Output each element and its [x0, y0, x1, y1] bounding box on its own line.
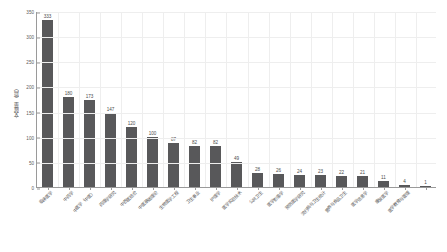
bar-slot: 24 — [289, 12, 310, 187]
x-axis-label: 医学教育与管理 — [387, 190, 411, 214]
bar-slot: 1 — [415, 12, 436, 187]
bar[interactable] — [126, 127, 137, 187]
bar-value-label: 173 — [86, 94, 94, 99]
bar-value-label: 87 — [171, 137, 176, 142]
bar[interactable] — [273, 174, 284, 187]
bar[interactable] — [63, 97, 74, 188]
bar-slot: 11 — [373, 12, 394, 187]
x-axis-label: 中医学（中医） — [71, 190, 95, 214]
y-axis-tick-label: 50 — [29, 160, 37, 165]
bar[interactable] — [189, 146, 200, 187]
bar-slot: 180 — [58, 12, 79, 187]
bar[interactable] — [105, 113, 116, 187]
bar-value-label: 1 — [424, 180, 427, 185]
bar-value-label: 82 — [192, 140, 197, 145]
x-axis-label: 预防医学研究 — [285, 190, 306, 211]
x-axis-label: 药理学研究 — [98, 190, 116, 208]
bar-slot: 82 — [205, 12, 226, 187]
x-axis-label: 医学信息学 — [351, 190, 369, 208]
x-axis-label: 中医基础理论 — [137, 190, 158, 211]
bar-value-label: 23 — [318, 169, 323, 174]
y-axis-tick-label: 250 — [26, 60, 37, 65]
bar-slot: 23 — [310, 12, 331, 187]
bar-slot: 120 — [121, 12, 142, 187]
y-axis-tick-label: 150 — [26, 110, 37, 115]
bar-slot: 49 — [226, 12, 247, 187]
bar-slot: 147 — [100, 12, 121, 187]
bar-value-label: 49 — [234, 156, 239, 161]
y-axis-tick-label: 200 — [26, 85, 37, 90]
bar[interactable] — [84, 100, 95, 187]
bar[interactable] — [315, 175, 326, 187]
x-axis-label: 公共卫生 — [248, 190, 263, 205]
bar-slot: 82 — [184, 12, 205, 187]
bar-slot: 100 — [142, 12, 163, 187]
bar-value-label: 147 — [107, 107, 115, 112]
x-axis-label: 护理学 — [209, 190, 221, 202]
bar-value-label: 24 — [297, 169, 302, 174]
x-axis-label: 卫生事业 — [185, 190, 200, 205]
x-axis-label: 中西医结合 — [119, 190, 137, 208]
x-axis-label: 临床医学 — [38, 190, 53, 205]
y-axis-tick-label: 350 — [26, 10, 37, 15]
bar-slot: 87 — [163, 12, 184, 187]
bar-value-label: 22 — [339, 170, 344, 175]
bar-chart: 文献量（篇） 333180173147120100878282492826242… — [0, 0, 447, 252]
bar-slot: 22 — [331, 12, 352, 187]
bar-value-label: 28 — [255, 167, 260, 172]
bar-slot: 333 — [37, 12, 58, 187]
bar-slot: 173 — [79, 12, 100, 187]
bar-value-label: 120 — [128, 121, 136, 126]
x-axis-label: 生物医学工程 — [158, 190, 179, 211]
bar-value-label: 180 — [65, 91, 73, 96]
bar-value-label: 333 — [44, 14, 52, 19]
bar[interactable] — [42, 20, 53, 187]
bar-value-label: 26 — [276, 168, 281, 173]
bar-value-label: 11 — [381, 175, 386, 180]
bar[interactable] — [147, 137, 158, 187]
bar-slot: 4 — [394, 12, 415, 187]
bar[interactable] — [231, 162, 242, 187]
y-axis-title: 文献量（篇） — [13, 86, 25, 118]
bar-slot: 21 — [352, 12, 373, 187]
bars-layer: 3331801731471201008782824928262423222111… — [37, 12, 436, 187]
bar[interactable] — [210, 146, 221, 187]
bar-slot: 28 — [247, 12, 268, 187]
bar-value-label: 100 — [149, 131, 157, 136]
bar-slot: 26 — [268, 12, 289, 187]
x-axis-labels: 临床医学中药学中医学（中医）药理学研究中西医结合中医基础理论生物医学工程卫生事业… — [36, 190, 436, 250]
x-axis-label: 中药学 — [62, 190, 74, 202]
bar[interactable] — [294, 175, 305, 187]
bar-value-label: 4 — [403, 179, 406, 184]
x-axis-label: 营养与食品卫生 — [324, 190, 348, 214]
y-axis-tick-label: 300 — [26, 35, 37, 40]
y-axis-tick-label: 100 — [26, 135, 37, 140]
bar-value-label: 82 — [213, 140, 218, 145]
x-axis-label: 医学实验技术 — [222, 190, 243, 211]
x-axis-label: 医学影像学 — [267, 190, 285, 208]
bar[interactable] — [357, 176, 368, 187]
x-axis-label: 康复医学 — [375, 190, 390, 205]
bar[interactable] — [336, 176, 347, 187]
plot-area: 3331801731471201008782824928262423222111… — [36, 12, 436, 188]
bar[interactable] — [168, 143, 179, 187]
bar-value-label: 21 — [360, 170, 365, 175]
bar[interactable] — [252, 173, 263, 187]
